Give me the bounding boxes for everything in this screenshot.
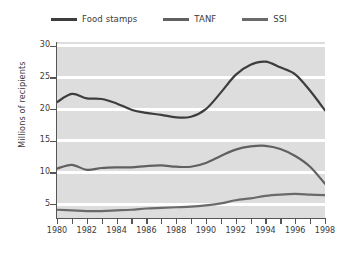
x-tick-1988: [176, 219, 177, 224]
x-tick-label: 1992: [225, 226, 245, 235]
y-tick-10: [50, 172, 56, 173]
x-tick-1980: [57, 219, 58, 224]
series-line-tanf: [57, 146, 325, 184]
y-tick-20: [50, 109, 56, 110]
legend-swatch-icon: [163, 18, 189, 21]
plot-area: [57, 42, 325, 218]
series-line-ssi: [57, 194, 325, 211]
legend-item-tanf[interactable]: TANF: [163, 14, 216, 24]
x-tick-1991: [221, 219, 222, 224]
chart-legend: Food stampsTANFSSI: [0, 10, 338, 28]
x-tick-1990: [206, 219, 207, 224]
x-tick-label: 1984: [106, 226, 126, 235]
series-lines: [57, 42, 325, 218]
x-tick-1996: [295, 219, 296, 224]
x-tick-1983: [102, 219, 103, 224]
x-tick-label: 1982: [77, 226, 97, 235]
legend-swatch-icon: [51, 18, 77, 21]
x-tick-1997: [310, 219, 311, 224]
x-tick-1992: [236, 219, 237, 224]
x-tick-label: 1994: [255, 226, 275, 235]
x-tick-label: 1998: [315, 226, 335, 235]
y-tick-label: 20: [4, 104, 50, 113]
legend-item-food-stamps[interactable]: Food stamps: [51, 14, 137, 24]
x-tick-label: 1988: [166, 226, 186, 235]
legend-swatch-icon: [242, 18, 268, 21]
y-tick-25: [50, 77, 56, 78]
x-tick-1986: [146, 219, 147, 224]
legend-item-ssi[interactable]: SSI: [242, 14, 287, 24]
y-axis-tick-labels: 51015202530: [0, 0, 50, 260]
y-tick-30: [50, 46, 56, 47]
x-tick-1987: [161, 219, 162, 224]
series-line-food-stamps: [57, 62, 325, 118]
x-tick-1993: [251, 219, 252, 224]
x-tick-1982: [87, 219, 88, 224]
x-tick-label: 1996: [285, 226, 305, 235]
legend-label: SSI: [273, 14, 287, 24]
y-tick-label: 25: [4, 72, 50, 81]
chart-figure: Food stampsTANFSSI Millions of recipient…: [0, 0, 338, 260]
x-tick-label: 1980: [47, 226, 67, 235]
x-tick-1994: [265, 219, 266, 224]
y-tick-label: 30: [4, 40, 50, 49]
y-tick-15: [50, 141, 56, 142]
x-tick-label: 1986: [136, 226, 156, 235]
legend-label: TANF: [194, 14, 216, 24]
y-tick-label: 10: [4, 167, 50, 176]
x-tick-label: 1990: [196, 226, 216, 235]
x-tick-1981: [72, 219, 73, 224]
x-tick-1995: [280, 219, 281, 224]
x-tick-1985: [131, 219, 132, 224]
y-tick-label: 15: [4, 135, 50, 144]
x-tick-1984: [117, 219, 118, 224]
y-tick-label: 5: [4, 199, 50, 208]
y-tick-5: [50, 204, 56, 205]
x-tick-1998: [325, 219, 326, 224]
x-tick-1989: [191, 219, 192, 224]
legend-label: Food stamps: [82, 14, 137, 24]
